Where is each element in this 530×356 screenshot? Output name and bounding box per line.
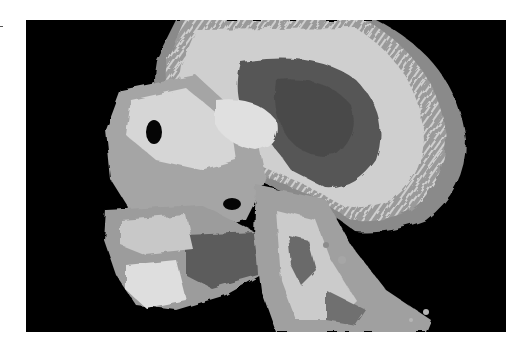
auditory-canal (223, 198, 241, 210)
orbit (146, 120, 162, 144)
margin-mark (0, 26, 3, 27)
skull-rendering (26, 20, 506, 332)
ct-skull-image (26, 20, 506, 332)
